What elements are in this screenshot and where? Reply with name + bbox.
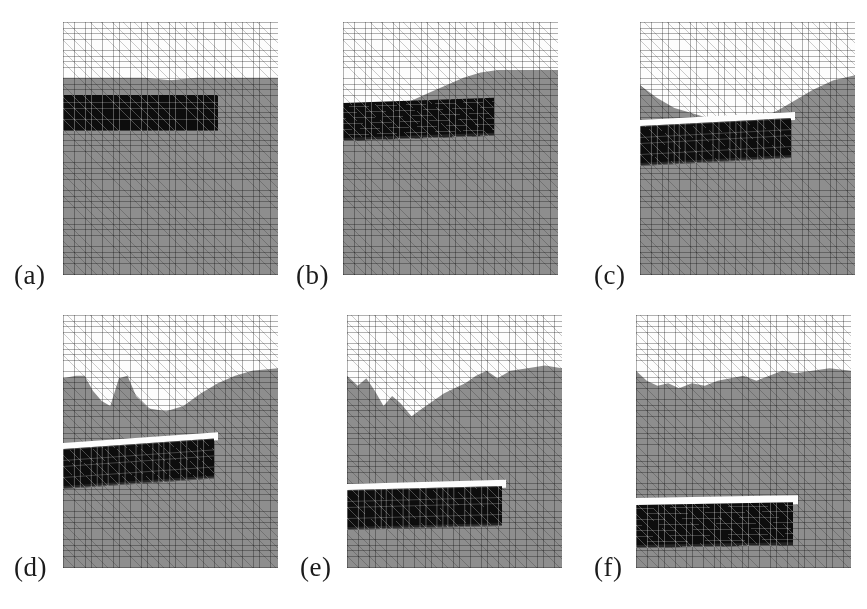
- free-surface-shape: [347, 315, 562, 568]
- dense-material-insert: [640, 118, 791, 166]
- dense-insert-group: [343, 98, 494, 141]
- insert-mesh-overlay: [640, 118, 791, 166]
- simulation-panel-c: [640, 22, 855, 275]
- void-region: [63, 22, 278, 80]
- dense-insert-group: [347, 486, 502, 531]
- insert-mesh-overlay: [347, 486, 502, 531]
- dense-material-insert: [347, 486, 502, 531]
- insert-mesh-overlay: [636, 502, 793, 548]
- void-region: [347, 315, 562, 416]
- void-region: [640, 22, 855, 123]
- panel-label-b: (b): [296, 262, 329, 289]
- dense-insert-group: [63, 95, 218, 130]
- dense-insert-group: [636, 502, 793, 548]
- figure-canvas: (a)(b)(c)(d)(e)(f): [0, 0, 867, 609]
- dense-material-insert: [343, 98, 494, 141]
- free-surface-shape: [63, 22, 278, 275]
- void-region: [63, 315, 278, 411]
- simulation-panel-a: [63, 22, 278, 275]
- insert-mesh-overlay: [343, 98, 494, 141]
- simulation-panel-d: [63, 315, 278, 568]
- dense-material-insert: [63, 95, 218, 130]
- dense-insert-group: [640, 118, 791, 166]
- panel-label-e: (e): [300, 554, 331, 581]
- free-surface-shape: [343, 22, 558, 275]
- simulation-panel-e: [347, 315, 562, 568]
- panel-label-f: (f): [594, 554, 622, 581]
- simulation-panel-b: [343, 22, 558, 275]
- dense-material-insert: [636, 502, 793, 548]
- simulation-panel-f: [636, 315, 851, 568]
- void-region: [343, 22, 558, 111]
- void-region: [636, 315, 851, 388]
- panel-label-c: (c): [594, 262, 625, 289]
- insert-mesh-overlay: [63, 95, 218, 130]
- panel-label-d: (d): [14, 554, 47, 581]
- panel-label-a: (a): [14, 262, 45, 289]
